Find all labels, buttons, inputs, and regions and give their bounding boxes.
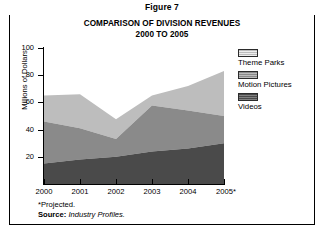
- footnote-source: Source: Industry Profiles.: [38, 210, 125, 220]
- plot-area: [44, 48, 224, 184]
- footnote-source-label: Source:: [38, 210, 66, 219]
- legend-item-theme-parks: Theme Parks: [238, 49, 314, 67]
- figure-label: Figure 7: [0, 2, 324, 12]
- x-tick-label-2001: 2001: [60, 188, 100, 196]
- y-tick-label-20: 20: [8, 153, 34, 161]
- legend-label-videos: Videos: [238, 102, 314, 111]
- x-tick-mark-2000: [44, 179, 45, 185]
- chart-legend: Theme Parks Motion Pictures Videos: [238, 49, 314, 115]
- legend-label-theme-parks: Theme Parks: [238, 58, 314, 67]
- x-tick-label-2003: 2003: [132, 188, 172, 196]
- chart-title: COMPARISON OF DIVISION REVENUES 2000 TO …: [0, 19, 324, 40]
- x-tick-mark-2001: [80, 179, 81, 185]
- dark-gray-swatch-icon: [238, 93, 258, 101]
- y-axis-title: Millions of Dollars: [19, 35, 31, 125]
- x-tick-mark-2005: [224, 179, 225, 185]
- legend-item-motion-pictures: Motion Pictures: [238, 71, 314, 89]
- figure-footnote: *Projected. Source: Industry Profiles.: [38, 200, 125, 219]
- x-axis-line: [43, 184, 225, 185]
- legend-label-motion-pictures: Motion Pictures: [238, 80, 314, 89]
- chart-title-line2: 2000 TO 2005: [0, 30, 324, 41]
- x-tick-label-2004: 2004: [168, 188, 208, 196]
- figure-container: Figure 7 COMPARISON OF DIVISION REVENUES…: [0, 0, 324, 226]
- x-tick-mark-2004: [188, 179, 189, 185]
- light-gray-swatch-icon: [238, 49, 258, 57]
- footnote-source-value: Industry Profiles.: [68, 210, 125, 219]
- x-tick-label-2002: 2002: [96, 188, 136, 196]
- x-tick-label-2000: 2000: [24, 188, 64, 196]
- stacked-area-svg: [44, 48, 224, 184]
- x-tick-label-2005: 2005*: [206, 188, 246, 196]
- x-tick-mark-2003: [152, 179, 153, 185]
- y-tick-label-40: 40: [8, 126, 34, 134]
- legend-item-videos: Videos: [238, 93, 314, 111]
- medium-gray-swatch-icon: [238, 71, 258, 79]
- footnote-projected: *Projected.: [38, 200, 125, 210]
- chart-title-line1: COMPARISON OF DIVISION REVENUES: [84, 19, 241, 28]
- x-tick-mark-2002: [116, 179, 117, 185]
